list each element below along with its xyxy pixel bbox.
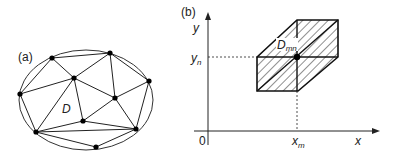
mesh-edge — [74, 53, 110, 78]
mesh-edge — [83, 98, 115, 121]
mesh-edge — [115, 81, 149, 98]
origin-label: 0 — [199, 134, 206, 148]
mesh-node — [33, 129, 38, 134]
mesh-edge — [110, 53, 115, 98]
mesh-node — [93, 144, 98, 149]
panel-a-label: (a) — [18, 50, 33, 64]
yn-label: yn — [190, 51, 202, 67]
mesh-node — [71, 75, 76, 80]
mesh-node — [112, 95, 117, 100]
panel-b: (b) Dmn y yn 0 xm x — [181, 5, 380, 150]
mesh-node — [17, 91, 22, 96]
mesh-node — [133, 126, 138, 131]
diagram-canvas: (a) D (b) Dmn y yn 0 xm x — [0, 0, 394, 157]
region-label-d: D — [62, 102, 71, 116]
mesh-node — [80, 118, 85, 123]
mesh-edge — [20, 78, 74, 94]
mesh-edge — [83, 121, 136, 129]
y-axis-label: y — [192, 21, 200, 35]
mesh-edge — [74, 78, 115, 98]
mesh-node — [146, 78, 151, 83]
mesh-node — [107, 50, 112, 55]
mesh-node — [49, 55, 54, 60]
mesh-edge — [52, 58, 74, 78]
panel-a: (a) D — [17, 50, 153, 150]
panel-b-label: (b) — [181, 5, 196, 19]
mesh-edge — [110, 53, 149, 81]
y-axis-arrow-icon — [205, 12, 211, 20]
mesh-edge — [74, 78, 83, 121]
domain-boundary-ellipse — [19, 50, 153, 150]
center-node — [294, 54, 300, 60]
mesh-edge — [36, 129, 136, 132]
xm-label: xm — [291, 134, 305, 150]
x-axis-label: x — [354, 134, 362, 148]
mesh-edge — [20, 94, 36, 132]
mesh-edge — [115, 98, 136, 129]
mesh-edges — [20, 53, 149, 147]
x-axis-arrow-icon — [372, 128, 380, 134]
